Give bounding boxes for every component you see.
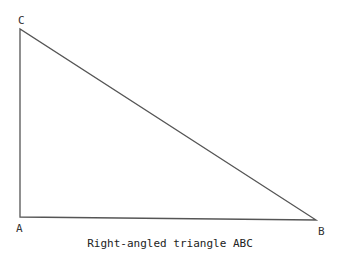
triangle-diagram: C A B Right-angled triangle ABC [0,0,343,265]
vertex-label-b: B [318,225,325,238]
vertex-label-c: C [18,14,25,27]
vertex-label-a: A [16,222,23,235]
triangle-abc [20,29,316,220]
diagram-caption: Right-angled triangle ABC [87,237,253,250]
